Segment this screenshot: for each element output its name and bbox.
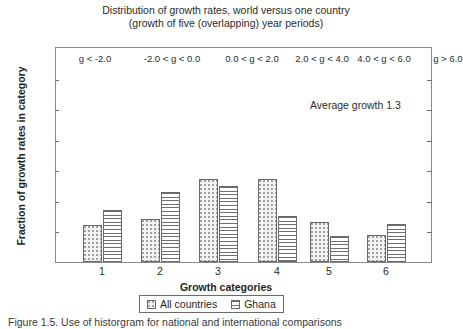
chart-title-line-1: Distribution of growth rates, world vers… — [102, 4, 349, 16]
x-tick-label: 4 — [262, 265, 292, 277]
category-range-label: g > 6.0 — [433, 52, 462, 66]
bar — [103, 210, 122, 262]
chart-title: Distribution of growth rates, world vers… — [0, 4, 452, 30]
bar — [219, 186, 238, 262]
bar — [330, 236, 349, 262]
bar — [310, 222, 329, 262]
bar — [83, 225, 102, 262]
legend-swatch-ghana-icon — [231, 300, 240, 309]
y-axis-title: Fraction of growth rates in category — [15, 46, 27, 266]
bar — [278, 216, 297, 262]
legend-swatch-all-countries-icon — [147, 300, 156, 309]
bar — [199, 179, 218, 262]
x-tick-label: 6 — [371, 265, 401, 277]
bar — [367, 235, 386, 263]
bar — [258, 179, 277, 262]
x-tick-label: 1 — [87, 265, 117, 277]
x-tick-label: 5 — [314, 265, 344, 277]
legend-entry-ghana: Ghana — [231, 298, 276, 310]
bar — [141, 219, 160, 262]
bar-group-container — [56, 48, 431, 262]
legend-label-all-countries: All countries — [160, 298, 217, 310]
legend-label-ghana: Ghana — [244, 298, 276, 310]
bar — [161, 192, 180, 262]
x-tick-label: 2 — [145, 265, 175, 277]
chart-title-line-2: (growth of five (overlapping) year perio… — [0, 17, 452, 30]
bar — [387, 224, 406, 262]
x-tick-label: 3 — [203, 265, 233, 277]
chart-legend: All countries Ghana — [139, 295, 284, 313]
figure-caption: Figure 1.5. Use of historgram for nation… — [8, 316, 448, 329]
x-axis-title: Growth categories — [0, 281, 452, 293]
legend-entry-all-countries: All countries — [147, 298, 217, 310]
